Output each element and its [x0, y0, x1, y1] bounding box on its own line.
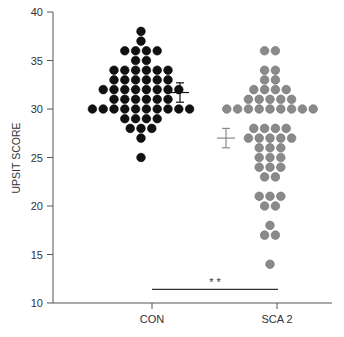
data-point-con [99, 85, 108, 94]
data-point-sca2 [271, 76, 280, 85]
data-point-con [131, 76, 140, 85]
data-point-con [131, 47, 140, 56]
data-point-con [148, 124, 157, 133]
data-point-sca2 [277, 105, 286, 114]
y-tick-label: 35 [31, 55, 43, 67]
y-tick-label: 10 [31, 297, 43, 309]
data-point-sca2 [282, 124, 291, 133]
data-point-con [131, 95, 140, 104]
y-tick-label: 25 [31, 152, 43, 164]
data-point-con [153, 95, 162, 104]
data-point-con [88, 105, 97, 114]
data-point-con [153, 66, 162, 75]
x-category-label: CON [140, 313, 165, 325]
data-point-con [142, 85, 151, 94]
data-point-sca2 [255, 192, 264, 201]
data-point-con [164, 66, 173, 75]
data-point-sca2 [298, 105, 307, 114]
data-point-con [110, 66, 119, 75]
data-point-con [142, 95, 151, 104]
data-point-con [153, 114, 162, 123]
data-point-sca2 [266, 153, 275, 162]
data-point-sca2 [277, 144, 286, 153]
data-point-con [137, 134, 146, 143]
data-point-sca2 [260, 47, 269, 56]
data-point-sca2 [255, 105, 264, 114]
data-point-sca2 [287, 105, 296, 114]
data-point-sca2 [255, 153, 264, 162]
data-point-sca2 [271, 173, 280, 182]
data-point-con [121, 66, 130, 75]
data-point-sca2 [260, 76, 269, 85]
data-point-sca2 [271, 202, 280, 211]
data-point-sca2 [260, 173, 269, 182]
data-point-sca2 [255, 144, 264, 153]
data-point-con [131, 85, 140, 94]
data-point-sca2 [255, 134, 264, 143]
data-point-sca2 [260, 202, 269, 211]
data-point-con [121, 76, 130, 85]
data-point-con [131, 105, 140, 114]
data-point-con [110, 105, 119, 114]
data-point-sca2 [260, 85, 269, 94]
data-point-sca2 [260, 124, 269, 133]
data-point-sca2 [266, 144, 275, 153]
data-point-sca2 [250, 124, 259, 133]
data-point-con [142, 114, 151, 123]
data-point-con [99, 105, 108, 114]
data-point-sca2 [266, 105, 275, 114]
data-point-con [137, 27, 146, 36]
data-point-con [142, 47, 151, 56]
data-point-con [164, 105, 173, 114]
data-point-sca2 [266, 134, 275, 143]
data-point-con [131, 66, 140, 75]
data-point-sca2 [271, 85, 280, 94]
data-point-con [153, 76, 162, 85]
y-axis-title: UPSIT SCORE [10, 123, 22, 194]
data-point-con [185, 105, 194, 114]
significance-label: * * [209, 276, 221, 288]
data-point-con [153, 85, 162, 94]
data-point-sca2 [277, 95, 286, 104]
data-point-sca2 [266, 163, 275, 172]
data-point-con [110, 95, 119, 104]
data-point-con [142, 76, 151, 85]
data-point-con [110, 76, 119, 85]
data-point-sca2 [287, 134, 296, 143]
data-point-con [137, 37, 146, 46]
data-point-con [131, 56, 140, 65]
data-point-con [121, 114, 130, 123]
data-point-con [153, 47, 162, 56]
data-point-sca2 [260, 231, 269, 240]
y-tick-label: 40 [31, 6, 43, 18]
data-point-sca2 [266, 192, 275, 201]
y-tick-label: 30 [31, 103, 43, 115]
data-point-con [175, 105, 184, 114]
data-point-sca2 [250, 85, 259, 94]
data-point-con [110, 85, 119, 94]
data-point-sca2 [260, 66, 269, 75]
data-point-sca2 [255, 163, 264, 172]
data-point-con [153, 105, 162, 114]
data-point-sca2 [244, 105, 253, 114]
data-point-sca2 [277, 192, 286, 201]
dot-plot-chart: UPSIT SCORE 10152025303540 CONSCA 2 * * [0, 0, 344, 337]
data-point-con [137, 153, 146, 162]
data-point-con [126, 124, 135, 133]
data-point-con [142, 105, 151, 114]
data-point-con [121, 85, 130, 94]
data-point-con [164, 76, 173, 85]
data-point-con [121, 47, 130, 56]
data-point-sca2 [287, 95, 296, 104]
data-point-con [131, 114, 140, 123]
y-tick-label: 20 [31, 200, 43, 212]
data-point-sca2 [233, 105, 242, 114]
data-point-sca2 [309, 105, 318, 114]
y-tick-label: 15 [31, 249, 43, 261]
data-point-sca2 [271, 66, 280, 75]
data-point-sca2 [266, 260, 275, 269]
data-point-con [164, 95, 173, 104]
data-point-sca2 [271, 231, 280, 240]
data-point-sca2 [255, 95, 264, 104]
data-point-sca2 [266, 221, 275, 230]
